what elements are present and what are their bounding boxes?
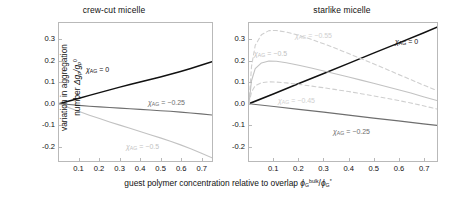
y-tick-label: -0.2	[29, 143, 55, 151]
x-tick-label: 0.5	[150, 165, 172, 173]
y-axis-label: variation in aggregation number Δgp/gp0	[59, 23, 84, 153]
x-tick-mark	[399, 158, 400, 161]
x-tick-mark	[349, 158, 350, 161]
y-tick-label: 0.0	[219, 100, 245, 108]
x-tick-label: 0.7	[413, 165, 435, 173]
panel-crew-cut: crew-cut micelle 0.30.20.10.0-0.1-0.2 0.…	[0, 0, 228, 198]
x-tick-mark	[140, 158, 141, 161]
panel-title-starlike: starlike micelle	[228, 5, 456, 15]
y-tick-label: 0.3	[29, 35, 55, 43]
curve-label-chi-055-starlike: χAG = −0.55	[295, 32, 332, 41]
y-tick-mark	[249, 61, 252, 62]
y-tick-label: 0.1	[219, 78, 245, 86]
x-axis-label: guest polymer concentration relative to …	[0, 178, 456, 188]
y-tick-mark	[249, 104, 252, 105]
x-tick-mark	[424, 158, 425, 161]
y-axis-label-wrap: variation in aggregation number Δgp/gp0	[46, 20, 47, 21]
x-tick-mark	[374, 158, 375, 161]
curve-label-chi-0-starlike: χAG = 0	[395, 38, 418, 47]
x-tick-label: 0.5	[363, 165, 385, 173]
x-tick-mark	[273, 158, 274, 161]
y-tick-label: -0.1	[29, 121, 55, 129]
x-tick-label: 0.7	[191, 165, 213, 173]
x-tick-mark	[120, 158, 121, 161]
x-tick-label: 0.6	[388, 165, 410, 173]
x-tick-label: 0.3	[312, 165, 334, 173]
x-tick-label: 0.6	[170, 165, 192, 173]
curve-label-chi-025-crew-cut: χAG = −0.25	[148, 99, 185, 108]
y-tick-label: 0.1	[29, 78, 55, 86]
x-tick-mark	[79, 158, 80, 161]
y-tick-mark	[249, 82, 252, 83]
x-tick-label: 0.2	[287, 165, 309, 173]
curve-label-chi-025-starlike: χAG = −0.25	[333, 128, 370, 137]
x-tick-mark	[202, 158, 203, 161]
y-tick-mark	[249, 39, 252, 40]
x-tick-label: 0.4	[338, 165, 360, 173]
x-tick-label: 0.2	[88, 165, 110, 173]
curve-label-chi-05-starlike: χAG = −0.5	[254, 50, 287, 59]
x-tick-label: 0.3	[109, 165, 131, 173]
curve-label-chi-045-starlike: χAG = −0.45	[278, 97, 315, 106]
x-tick-label: 0.1	[68, 165, 90, 173]
curve-label-chi-05-crew-cut: χAG = −0.5	[126, 143, 159, 152]
y-tick-label: -0.2	[219, 143, 245, 151]
x-tick-label: 0.4	[129, 165, 151, 173]
y-tick-label: 0.2	[29, 57, 55, 65]
panel-starlike: starlike micelle 0.30.20.10.0-0.1-0.2 0.…	[228, 0, 456, 198]
x-tick-mark	[181, 158, 182, 161]
y-tick-mark	[249, 147, 252, 148]
x-tick-mark	[161, 158, 162, 161]
curve-right-1	[249, 104, 437, 126]
panel-title-crew-cut: crew-cut micelle	[0, 5, 228, 15]
y-tick-label: 0.2	[219, 57, 245, 65]
y-tick-label: 0.3	[219, 35, 245, 43]
figure-root: crew-cut micelle 0.30.20.10.0-0.1-0.2 0.…	[0, 0, 456, 198]
x-tick-mark	[99, 158, 100, 161]
x-tick-label: 0.1	[262, 165, 284, 173]
x-tick-mark	[298, 158, 299, 161]
y-tick-label: 0.0	[29, 100, 55, 108]
x-tick-mark	[323, 158, 324, 161]
y-tick-label: -0.1	[219, 121, 245, 129]
curve-label-chi-0-crew-cut: χAG = 0	[86, 66, 109, 75]
y-tick-mark	[249, 125, 252, 126]
